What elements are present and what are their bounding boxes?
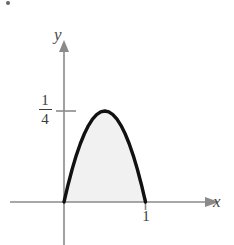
x-tick-label-one: 1 — [138, 209, 154, 224]
parabola-figure: y x 1 4 1 — [0, 0, 234, 245]
fraction-numerator: 1 — [33, 92, 57, 108]
y-axis-label: y — [54, 26, 62, 43]
y-tick-label-one-quarter: 1 4 — [33, 92, 57, 127]
x-axis-label: x — [213, 193, 221, 210]
fraction-denominator: 4 — [33, 111, 57, 127]
fraction-bar — [39, 109, 52, 110]
